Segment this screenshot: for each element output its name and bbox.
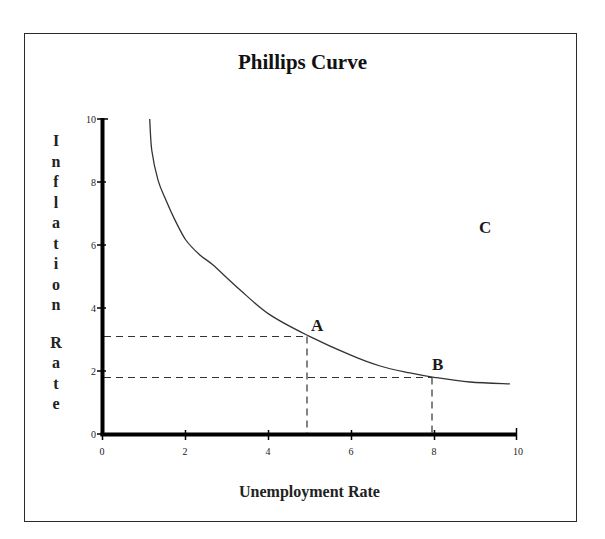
y-tick-label: 2	[91, 366, 96, 377]
x-tick-label: 6	[349, 446, 354, 457]
x-tick-label: 0	[100, 446, 105, 457]
y-tick-label: 4	[91, 303, 96, 314]
axes	[101, 118, 518, 436]
x-tick-label: 2	[183, 446, 188, 457]
point-label-b: B	[432, 355, 443, 374]
x-tick-label: 8	[432, 446, 437, 457]
point-label-a: A	[311, 316, 324, 335]
x-tick-labels: 0 2 4 6 8 10	[100, 446, 524, 457]
x-tick-label: 10	[513, 446, 523, 457]
y-tick-label: 8	[91, 177, 96, 188]
guide-lines	[104, 337, 432, 434]
y-tick-label: 10	[86, 114, 96, 125]
plot-area: 10 8 6 4 2 0 0 2 4 6 8 10 A B C	[0, 0, 605, 539]
y-tick-labels: 10 8 6 4 2 0	[86, 114, 96, 440]
phillips-curve-line	[150, 119, 510, 384]
x-tick-label: 4	[266, 446, 271, 457]
point-label-c: C	[479, 218, 491, 237]
y-tick-label: 6	[91, 240, 96, 251]
y-tick-label: 0	[91, 429, 96, 440]
